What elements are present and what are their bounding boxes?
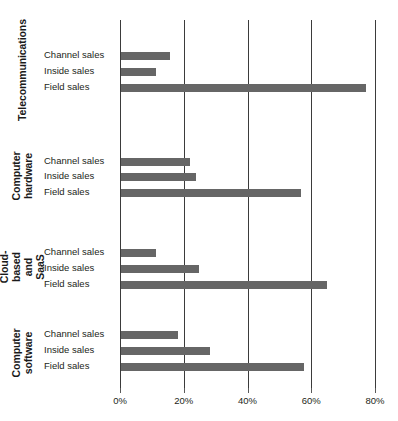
group-label-text: Computer hardware (10, 152, 34, 201)
x-tick-label: 80% (365, 395, 384, 406)
bar (121, 265, 199, 273)
group-label-computer-hardware: Computer hardware (0, 136, 44, 216)
gridline-40pct (248, 20, 249, 388)
bar (121, 363, 304, 371)
series-label: Channel sales (44, 156, 116, 166)
series-label: Field sales (44, 279, 116, 289)
series-label: Field sales (44, 187, 116, 197)
series-label: Inside sales (44, 263, 116, 273)
group-label-line-1: Cloud-based (0, 251, 22, 284)
x-tick (311, 388, 312, 393)
x-tick-label: 0% (113, 395, 127, 406)
group-label-telecommunications: Telecommunications (0, 10, 44, 130)
series-label: Channel sales (44, 50, 116, 60)
bar (121, 84, 366, 92)
group-label-text: Cloud-based and SaaS (0, 245, 46, 289)
bar (121, 68, 156, 76)
series-label: Inside sales (44, 66, 116, 76)
group-label-text: Computer software (10, 329, 34, 378)
series-label: Channel sales (44, 329, 116, 339)
series-label: Field sales (44, 361, 116, 371)
group-label-cloud-based-and-saas: Cloud-based and SaaS (0, 228, 44, 306)
group-label-line-1: Computer (10, 329, 22, 378)
group-label-line-1: Computer (10, 152, 22, 201)
series-label: Field sales (44, 82, 116, 92)
gridline-60pct (311, 20, 312, 388)
bar (121, 158, 190, 166)
x-tick-label: 60% (302, 395, 321, 406)
series-label: Channel sales (44, 247, 116, 257)
bar-chart: Telecommunications Computer hardware Clo… (0, 0, 398, 421)
series-label: Inside sales (44, 171, 116, 181)
bar (121, 173, 196, 181)
x-tick-label: 40% (238, 395, 257, 406)
bar (121, 189, 301, 197)
x-tick (120, 388, 121, 393)
gridline-20pct (184, 20, 185, 388)
group-label-computer-software: Computer software (0, 314, 44, 392)
x-tick (184, 388, 185, 393)
group-label-text: Telecommunications (16, 19, 28, 121)
x-tick (248, 388, 249, 393)
x-tick (375, 388, 376, 393)
bar (121, 281, 327, 289)
gridline-80pct (375, 20, 376, 388)
group-label-line-2: and SaaS (22, 254, 46, 279)
bar (121, 249, 156, 257)
x-tick-label: 20% (174, 395, 193, 406)
series-label: Inside sales (44, 345, 116, 355)
bar (121, 347, 210, 355)
group-label-line-2: software (22, 332, 34, 374)
bar (121, 331, 178, 339)
group-label-line-2: hardware (22, 153, 34, 199)
bar (121, 52, 170, 60)
plot-area (120, 20, 375, 388)
